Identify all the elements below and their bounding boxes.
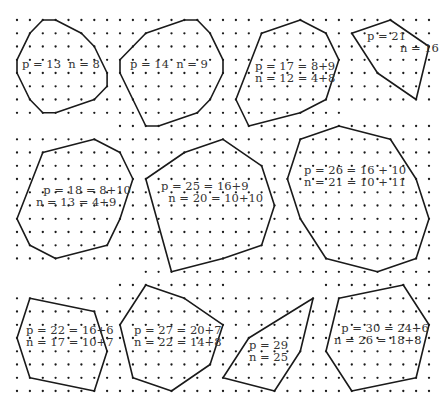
lattice-dot	[376, 204, 378, 206]
label-line: n = 20 = 10+10	[161, 192, 263, 204]
lattice-dot	[351, 231, 353, 233]
lattice-dot	[93, 85, 95, 87]
lattice-dot	[376, 310, 378, 312]
lattice-dot	[222, 98, 224, 100]
lattice-dot	[222, 284, 224, 286]
lattice-dot	[42, 363, 44, 365]
lattice-dot	[183, 138, 185, 140]
lattice-dot	[351, 138, 353, 140]
lattice-dot	[415, 244, 417, 246]
lattice-dot	[415, 59, 417, 61]
lattice-dot	[248, 257, 250, 259]
lattice-dot	[389, 284, 391, 286]
lattice-dot	[235, 324, 237, 326]
lattice-dot	[132, 350, 134, 352]
lattice-dot	[286, 45, 288, 47]
lattice-dot	[145, 151, 147, 153]
lattice-dot	[325, 112, 327, 114]
lattice-dot	[351, 350, 353, 352]
lattice-dot	[106, 390, 108, 392]
lattice-dot	[402, 310, 404, 312]
lattice-dot	[29, 310, 31, 312]
lattice-dot	[170, 231, 172, 233]
lattice-dot	[248, 138, 250, 140]
lattice-dot	[196, 72, 198, 74]
lattice-dot	[119, 297, 121, 299]
lattice-dot	[402, 350, 404, 352]
lattice-dot	[183, 310, 185, 312]
lattice-dot	[183, 350, 185, 352]
lattice-dot	[222, 45, 224, 47]
lattice-dot	[209, 138, 211, 140]
lattice-dot	[376, 297, 378, 299]
lattice-dot	[248, 244, 250, 246]
lattice-dot	[209, 284, 211, 286]
lattice-dot	[363, 257, 365, 259]
lattice-dot	[93, 231, 95, 233]
lattice-dot	[235, 138, 237, 140]
lattice-dot	[363, 218, 365, 220]
lattice-dot	[389, 125, 391, 127]
lattice-dot	[157, 363, 159, 365]
lattice-dot	[132, 112, 134, 114]
lattice-dot	[428, 98, 430, 100]
lattice-dot	[80, 390, 82, 392]
lattice-dot	[415, 85, 417, 87]
label-line: n = 12 = 4+8	[255, 72, 335, 84]
lattice-dot	[222, 337, 224, 339]
lattice-dot	[16, 257, 18, 259]
lattice-dot	[119, 337, 121, 339]
lattice-dot	[170, 32, 172, 34]
lattice-dot	[299, 178, 301, 180]
lattice-dot	[312, 45, 314, 47]
lattice-dot	[132, 19, 134, 21]
lattice-dot	[415, 191, 417, 193]
lattice-dot	[183, 98, 185, 100]
lattice-dot	[428, 165, 430, 167]
lattice-dot	[29, 19, 31, 21]
lattice-dot	[170, 85, 172, 87]
lattice-dot	[67, 310, 69, 312]
lattice-dot	[93, 19, 95, 21]
lattice-dot	[402, 204, 404, 206]
lattice-dot	[338, 45, 340, 47]
lattice-dot	[119, 45, 121, 47]
lattice-dot	[119, 244, 121, 246]
lattice-dot	[183, 390, 185, 392]
lattice-dot	[338, 85, 340, 87]
lattice-dot	[54, 297, 56, 299]
lattice-dot	[157, 72, 159, 74]
lattice-dot	[209, 72, 211, 74]
lattice-dot	[273, 32, 275, 34]
lattice-dot	[363, 59, 365, 61]
lattice-dot	[196, 297, 198, 299]
lattice-dot	[273, 125, 275, 127]
lattice-dot	[170, 310, 172, 312]
lattice-dot	[157, 191, 159, 193]
lattice-dot	[363, 19, 365, 21]
lattice-dot	[42, 45, 44, 47]
lattice-dot	[80, 98, 82, 100]
lattice-dot	[286, 125, 288, 127]
lattice-dot	[338, 284, 340, 286]
lattice-dot	[338, 218, 340, 220]
label-line: n = 17 = 10+7	[26, 336, 114, 348]
lattice-dot	[106, 19, 108, 21]
lattice-dot	[209, 19, 211, 21]
lattice-dot	[54, 138, 56, 140]
lattice-dot	[376, 390, 378, 392]
lattice-dot	[170, 244, 172, 246]
lattice-dot	[29, 72, 31, 74]
lattice-dot	[145, 377, 147, 379]
lattice-dot	[54, 244, 56, 246]
lattice-dot	[351, 284, 353, 286]
lattice-dot	[157, 45, 159, 47]
lattice-dot	[299, 32, 301, 34]
lattice-dot	[222, 310, 224, 312]
lattice-dot	[183, 72, 185, 74]
lattice-dot	[260, 151, 262, 153]
lattice-dot	[363, 310, 365, 312]
lattice-dot	[209, 85, 211, 87]
lattice-dot	[338, 151, 340, 153]
lattice-dot	[54, 85, 56, 87]
